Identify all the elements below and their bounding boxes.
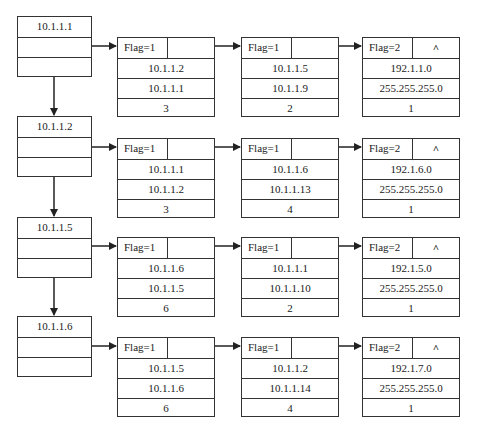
edge-node-3-2: Flag=1 10.1.1.1 10.1.1.10 2 — [241, 237, 339, 317]
field-1: 10.1.1.6 — [242, 159, 338, 179]
field-1: 10.1.1.6 — [118, 258, 214, 278]
head-node-edge-pointer — [18, 37, 91, 57]
next-pointer — [292, 139, 338, 159]
flag-field: Flag=2 — [363, 338, 413, 358]
next-pointer — [168, 338, 214, 358]
edge-node-3-3: Flag=2^ 192.1.5.0 255.255.255.0 1 — [362, 237, 460, 317]
field-2: 255.255.255.0 — [363, 78, 459, 98]
field-2: 255.255.255.0 — [363, 378, 459, 398]
field-2: 10.1.1.5 — [118, 278, 214, 298]
next-pointer — [168, 139, 214, 159]
field-3: 1 — [363, 398, 459, 417]
edge-node-4-2: Flag=1 10.1.1.2 10.1.1.14 4 — [241, 337, 339, 417]
edge-node-4-1: Flag=1 10.1.1.5 10.1.1.6 6 — [117, 337, 215, 417]
flag-field: Flag=1 — [118, 238, 168, 258]
head-node-next-pointer — [18, 57, 91, 77]
field-2: 255.255.255.0 — [363, 278, 459, 298]
head-node-label: 10.1.1.1 — [18, 17, 91, 37]
edge-node-3-1: Flag=1 10.1.1.6 10.1.1.5 6 — [117, 237, 215, 317]
flag-field: Flag=1 — [242, 38, 292, 58]
edge-node-2-2: Flag=1 10.1.1.6 10.1.1.13 4 — [241, 138, 339, 218]
edge-node-1-1: Flag=1 10.1.1.2 10.1.1.1 3 — [117, 37, 215, 117]
field-3: 3 — [118, 98, 214, 117]
field-1: 192.1.6.0 — [363, 159, 459, 179]
edge-node-2-1: Flag=1 10.1.1.1 10.1.1.2 3 — [117, 138, 215, 218]
next-pointer — [292, 38, 338, 58]
flag-field: Flag=1 — [242, 338, 292, 358]
head-node-label: 10.1.1.2 — [18, 117, 91, 137]
field-2: 255.255.255.0 — [363, 179, 459, 199]
field-2: 10.1.1.9 — [242, 78, 338, 98]
next-pointer — [168, 238, 214, 258]
head-node-next-pointer — [18, 357, 91, 377]
field-1: 192.1.5.0 — [363, 258, 459, 278]
head-node-3: 10.1.1.5 — [17, 217, 92, 278]
field-3: 1 — [363, 199, 459, 218]
head-node-label: 10.1.1.5 — [18, 218, 91, 238]
head-node-1: 10.1.1.1 — [17, 16, 92, 77]
field-2: 10.1.1.10 — [242, 278, 338, 298]
flag-field: Flag=2 — [363, 38, 413, 58]
head-node-edge-pointer — [18, 137, 91, 157]
field-1: 10.1.1.5 — [118, 358, 214, 378]
head-node-next-pointer — [18, 258, 91, 278]
flag-field: Flag=1 — [118, 139, 168, 159]
field-1: 10.1.1.1 — [242, 258, 338, 278]
edge-node-1-3: Flag=2^ 192.1.1.0 255.255.255.0 1 — [362, 37, 460, 117]
field-1: 10.1.1.2 — [118, 58, 214, 78]
head-node-edge-pointer — [18, 238, 91, 258]
flag-field: Flag=1 — [118, 338, 168, 358]
next-pointer — [168, 38, 214, 58]
field-3: 1 — [363, 98, 459, 117]
field-3: 3 — [118, 199, 214, 218]
field-2: 10.1.1.2 — [118, 179, 214, 199]
field-1: 10.1.1.2 — [242, 358, 338, 378]
next-pointer — [292, 238, 338, 258]
flag-field: Flag=1 — [242, 139, 292, 159]
edge-node-4-3: Flag=2^ 192.1.7.0 255.255.255.0 1 — [362, 337, 460, 417]
field-2: 10.1.1.14 — [242, 378, 338, 398]
edge-node-2-3: Flag=2^ 192.1.6.0 255.255.255.0 1 — [362, 138, 460, 218]
field-2: 10.1.1.13 — [242, 179, 338, 199]
field-3: 1 — [363, 298, 459, 317]
field-3: 6 — [118, 398, 214, 417]
head-node-2: 10.1.1.2 — [17, 116, 92, 177]
field-2: 10.1.1.1 — [118, 78, 214, 98]
field-1: 10.1.1.1 — [118, 159, 214, 179]
field-3: 4 — [242, 199, 338, 218]
next-pointer — [292, 338, 338, 358]
null-pointer-icon: ^ — [413, 338, 459, 358]
head-node-4: 10.1.1.6 — [17, 316, 92, 377]
flag-field: Flag=1 — [118, 38, 168, 58]
field-1: 192.1.7.0 — [363, 358, 459, 378]
flag-field: Flag=1 — [242, 238, 292, 258]
null-pointer-icon: ^ — [413, 238, 459, 258]
flag-field: Flag=2 — [363, 139, 413, 159]
edge-node-1-2: Flag=1 10.1.1.5 10.1.1.9 2 — [241, 37, 339, 117]
field-1: 192.1.1.0 — [363, 58, 459, 78]
field-3: 2 — [242, 98, 338, 117]
field-3: 4 — [242, 398, 338, 417]
field-3: 6 — [118, 298, 214, 317]
null-pointer-icon: ^ — [413, 139, 459, 159]
head-node-edge-pointer — [18, 337, 91, 357]
head-node-next-pointer — [18, 157, 91, 177]
flag-field: Flag=2 — [363, 238, 413, 258]
null-pointer-icon: ^ — [413, 38, 459, 58]
field-1: 10.1.1.5 — [242, 58, 338, 78]
head-node-label: 10.1.1.6 — [18, 317, 91, 337]
field-3: 2 — [242, 298, 338, 317]
field-2: 10.1.1.6 — [118, 378, 214, 398]
